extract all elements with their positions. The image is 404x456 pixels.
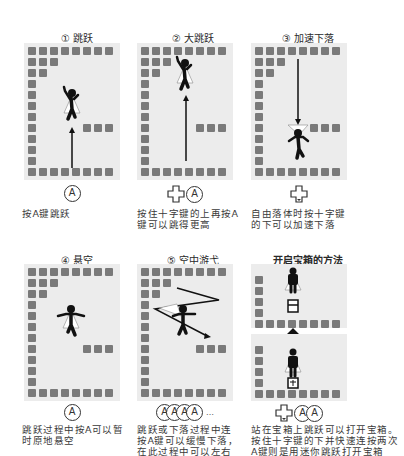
fast-fall-figure-icon — [251, 43, 347, 180]
panel-description: 自由落体时按十字键的下可以加速下落 — [251, 208, 355, 230]
chest-stand-figure-icon — [251, 334, 347, 401]
game-scene-open-chest-top — [251, 264, 347, 328]
control-hint: A — [24, 185, 120, 202]
control-hint: A — [24, 404, 120, 421]
a-button-icon: A — [306, 405, 323, 422]
control-hint: A A A A … — [137, 404, 233, 421]
chest-jump-figure-icon — [251, 264, 347, 328]
a-button-icon: A — [186, 404, 203, 421]
panel-description: 跳跃过程中按A可以暂时原地悬空 — [22, 424, 124, 446]
panel-description: 站在宝箱上跳跃可以打开宝箱。按住十字键的下并快速连按两次A键则是用迷你跳跃打开宝… — [251, 424, 404, 456]
game-scene-open-chest-bottom — [251, 334, 347, 401]
dpad-icon — [167, 185, 185, 203]
hover-figure-icon — [24, 264, 120, 401]
a-button-icon: A — [64, 185, 81, 202]
game-scene-high-jump — [137, 43, 233, 180]
control-hint: A — [137, 185, 233, 203]
air-glide-figure-icon — [137, 264, 233, 401]
panel-description: 跳跃或下落过程中连按A键可以缓慢下落，在此过程中可以左右移动 — [137, 424, 241, 456]
a-button-icon: A — [186, 186, 203, 203]
panel-description: 按住十字键的上再按A键可以跳得更高 — [137, 208, 241, 230]
dpad-icon — [275, 404, 293, 422]
game-scene-fast-fall — [251, 43, 347, 180]
high-jump-figure-icon — [137, 43, 233, 180]
panel-description: 按A键跳跃 — [22, 208, 122, 219]
ellipsis: … — [206, 408, 214, 417]
dpad-icon — [290, 185, 308, 203]
game-scene-air-glide — [137, 264, 233, 401]
a-button-icon: A — [64, 404, 81, 421]
control-hint: A A — [251, 404, 347, 422]
game-scene-hover — [24, 264, 120, 401]
jump-figure-icon — [24, 43, 120, 180]
control-hint — [251, 185, 347, 203]
game-scene-jump — [24, 43, 120, 180]
